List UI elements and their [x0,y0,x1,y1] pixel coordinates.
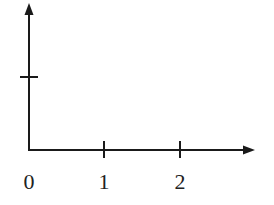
coordinate-axes-diagram: 0 1 2 [0,0,274,205]
origin-label: 0 [24,169,35,194]
x-tick-label-1: 1 [99,169,110,194]
y-axis-arrow-icon [25,3,34,15]
x-tick-label-2: 2 [175,169,186,194]
x-axis-arrow-icon [243,146,255,155]
